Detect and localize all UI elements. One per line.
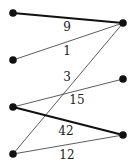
edge-weight-label: 1 (63, 44, 71, 58)
edge-weight-label: 9 (63, 20, 71, 34)
node-l2 (9, 56, 17, 64)
edge-weight-label: 42 (58, 124, 73, 138)
node-l1 (9, 9, 17, 17)
edge-weight-label: 3 (63, 70, 71, 84)
edge-weight-label: 15 (69, 93, 84, 107)
edge-labels: 913154212 (58, 20, 84, 162)
node-r1 (119, 19, 127, 27)
node-l3 (9, 103, 17, 111)
bipartite-graph: 913154212 (0, 0, 137, 166)
node-r3 (119, 131, 127, 139)
node-r2 (119, 75, 127, 83)
node-l4 (9, 150, 17, 158)
edge-weight-label: 12 (59, 148, 74, 162)
